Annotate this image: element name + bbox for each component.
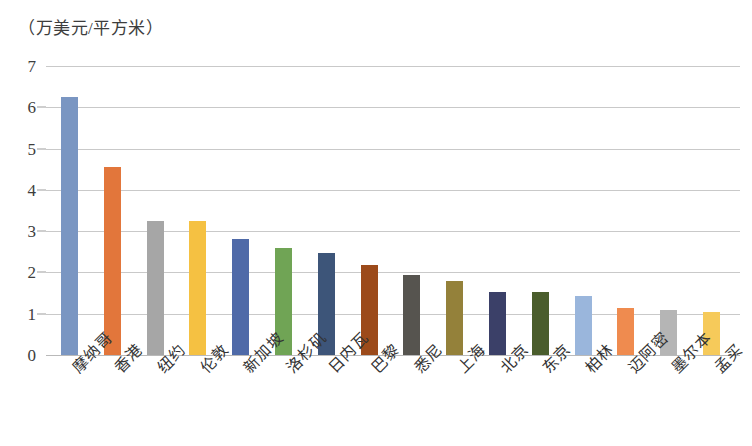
bar bbox=[189, 221, 206, 355]
y-tick-mark bbox=[37, 313, 46, 314]
bar bbox=[575, 296, 592, 355]
y-tick-label: 6 bbox=[6, 99, 36, 116]
y-tick-label: 2 bbox=[6, 264, 36, 281]
y-tick-mark bbox=[37, 272, 46, 273]
bar bbox=[489, 292, 506, 355]
bar bbox=[617, 308, 634, 355]
y-tick-label: 0 bbox=[6, 347, 36, 364]
bar bbox=[61, 97, 78, 355]
bar bbox=[232, 239, 249, 355]
y-tick-mark bbox=[37, 107, 46, 108]
gridline bbox=[46, 190, 740, 191]
gridline bbox=[46, 107, 740, 108]
gridline bbox=[46, 66, 740, 67]
y-axis: 01234567 bbox=[0, 66, 46, 355]
x-axis-labels: 摩纳哥香港纽约伦敦新加坡洛杉矶日内瓦巴黎悉尼上海北京东京柏林迈阿密墨尔本孟买 bbox=[46, 357, 740, 446]
bar-chart: （万美元/平方米） 01234567 摩纳哥香港纽约伦敦新加坡洛杉矶日内瓦巴黎悉… bbox=[0, 0, 752, 446]
bar bbox=[403, 275, 420, 356]
chart-unit-title: （万美元/平方米） bbox=[18, 14, 163, 39]
bar bbox=[446, 281, 463, 355]
y-tick-label: 4 bbox=[6, 181, 36, 198]
bar bbox=[104, 167, 121, 355]
plot-area bbox=[46, 66, 740, 355]
bar bbox=[532, 292, 549, 355]
y-tick-mark bbox=[37, 148, 46, 149]
y-tick-mark bbox=[37, 231, 46, 232]
y-tick-label: 1 bbox=[6, 305, 36, 322]
y-tick-label: 5 bbox=[6, 140, 36, 157]
gridline bbox=[46, 149, 740, 150]
bar bbox=[147, 221, 164, 355]
y-tick-mark bbox=[37, 189, 46, 190]
y-tick-label: 3 bbox=[6, 223, 36, 240]
y-tick-label: 7 bbox=[6, 58, 36, 75]
